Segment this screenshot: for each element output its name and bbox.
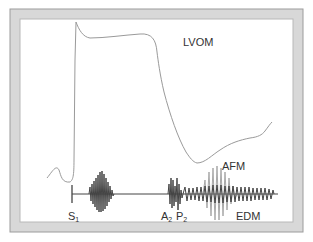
label-afm: AFM bbox=[222, 161, 245, 172]
label-a2: A2 bbox=[161, 211, 172, 223]
label-p2-sub: 2 bbox=[183, 216, 187, 223]
label-a2-sub: 2 bbox=[168, 216, 172, 223]
label-edm: EDM bbox=[236, 211, 260, 222]
label-p2: P2 bbox=[176, 211, 187, 223]
label-s1: S1 bbox=[68, 211, 79, 223]
label-lvom: LVOM bbox=[183, 37, 213, 48]
label-s1-sub: 1 bbox=[75, 216, 79, 223]
diagram-figure: LVOM AFM S1 A2 P2 EDM bbox=[0, 0, 313, 242]
diagram-canvas bbox=[0, 0, 313, 242]
